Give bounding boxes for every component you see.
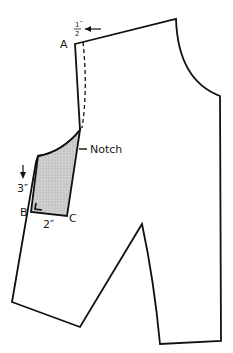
label-two-inch: 2″ (43, 218, 54, 231)
label-point-b: B (20, 206, 28, 219)
shaded-yoke-region (31, 130, 80, 216)
label-half-inch-mark: ″ (80, 20, 83, 28)
label-point-a: A (60, 38, 68, 51)
dashed-guide-line (82, 42, 85, 128)
arrow-left-icon (85, 26, 101, 32)
label-point-c: C (69, 212, 77, 225)
label-half-num: 1 (75, 21, 79, 29)
arrow-down-icon (20, 165, 26, 179)
label-three-inch: 3″ (17, 182, 28, 195)
pattern-diagram: A 1 2 ″ Notch 3″ B C 2″ (0, 0, 233, 353)
label-notch: Notch (90, 143, 122, 156)
label-half-den: 2 (75, 30, 79, 38)
